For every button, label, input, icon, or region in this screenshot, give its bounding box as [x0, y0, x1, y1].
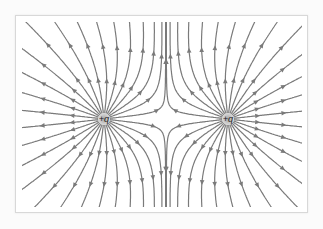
arrow-head-icon [225, 182, 230, 187]
field-line [234, 111, 309, 119]
field-lines-diagram [0, 0, 323, 229]
field-line [189, 15, 224, 115]
arrow-head-icon [213, 45, 218, 50]
field-line [29, 124, 101, 213]
arrow-head-icon [112, 80, 117, 85]
field-line [234, 93, 309, 117]
arrow-head-icon [104, 151, 109, 156]
arrow-head-icon [176, 51, 181, 56]
arrow-head-icon [151, 123, 156, 127]
arrow-head-icon [281, 135, 286, 139]
field-line [108, 123, 143, 213]
arrow-head-icon [231, 78, 235, 83]
arrow-head-icon [239, 181, 243, 186]
arrow-head-icon [226, 44, 231, 49]
arrow-head-icon [70, 107, 75, 111]
arrow-head-icon [115, 45, 120, 50]
arrow-head-icon [187, 48, 192, 53]
field-line [231, 124, 303, 213]
field-line [234, 121, 309, 145]
arrow-head-icon [115, 182, 120, 187]
field-line [15, 121, 98, 148]
arrow-head-icon [151, 51, 156, 56]
arrow-head-icon [215, 80, 220, 85]
field-line [106, 16, 117, 114]
arrow-head-icon [111, 149, 116, 154]
arrow-head-icon [199, 47, 204, 52]
charge-label-1: +q [99, 115, 109, 124]
arrow-head-icon [168, 53, 173, 58]
arrow-head-icon [101, 44, 106, 49]
arrow-head-icon [230, 150, 235, 155]
arrow-head-icon [96, 78, 100, 83]
arrow-head-icon [70, 127, 75, 131]
arrow-head-icon [184, 133, 189, 138]
arrow-head-icon [281, 99, 286, 103]
arrow-head-icon [212, 182, 217, 187]
arrow-head-icon [254, 107, 259, 111]
arrow-head-icon [128, 47, 133, 52]
arrow-head-icon [159, 53, 164, 58]
field-line [16, 110, 98, 119]
field-line [108, 15, 143, 115]
arrow-head-icon [159, 171, 164, 176]
arrow-head-icon [223, 151, 228, 156]
arrow-head-icon [97, 150, 102, 155]
arrow-head-icon [104, 78, 109, 83]
arrow-head-icon [176, 123, 181, 127]
field-line [15, 44, 99, 115]
arrow-head-icon [216, 149, 221, 154]
field-line [215, 16, 226, 114]
arrow-head-icon [40, 97, 45, 101]
field-line [16, 120, 98, 129]
arrow-head-icon [40, 136, 45, 140]
arrow-head-icon [254, 126, 259, 130]
arrow-head-icon [169, 171, 174, 176]
arrow-head-icon [143, 133, 148, 138]
field-line [166, 16, 222, 119]
charge-label-2: +q [223, 115, 233, 124]
arrow-head-icon [223, 78, 228, 83]
field-line [234, 120, 309, 128]
field-line [110, 16, 166, 119]
arrow-head-icon [200, 180, 205, 185]
arrow-head-icon [102, 182, 107, 187]
arrow-head-icon [89, 181, 93, 186]
field-line [189, 123, 224, 213]
field-line [15, 90, 98, 117]
field-line [15, 123, 99, 194]
arrow-head-icon [128, 180, 133, 185]
arrow-head-icon [141, 48, 146, 53]
